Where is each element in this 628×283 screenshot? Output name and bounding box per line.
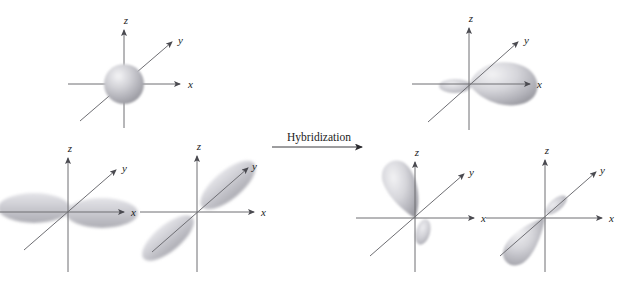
panel-py-orbital: z y x <box>135 140 266 272</box>
axis-label-x: x <box>480 212 486 224</box>
axis-label-x: x <box>608 212 614 224</box>
axis-label-y: y <box>599 164 605 176</box>
hybrid-2-lobes <box>380 158 434 246</box>
axis-label-z: z <box>544 144 550 156</box>
axis-label-z: z <box>196 140 202 152</box>
hybrid-3-small-lobe <box>542 192 570 218</box>
panel-px-orbital: z y x <box>0 142 138 272</box>
axis-label-y: y <box>121 162 127 174</box>
hybridization-label: Hybridization <box>287 131 351 144</box>
hybrid-1-small-lobe <box>439 79 471 93</box>
hybrid-2-small-lobe <box>413 218 434 247</box>
axis-label-z: z <box>67 142 73 154</box>
orbital-hybridization-figure: z y x z y x <box>0 0 628 283</box>
figure-canvas: z y x z y x <box>0 0 628 283</box>
hybrid-3-large-lobe <box>503 218 545 265</box>
hybridization-arrow-group: Hybridization <box>272 131 362 147</box>
axis-line-y <box>500 172 596 256</box>
axis-label-y: y <box>523 34 529 46</box>
axis-label-x: x <box>260 206 266 218</box>
axis-label-z: z <box>468 12 474 24</box>
axis-label-x: x <box>130 206 136 218</box>
axis-line-y <box>152 168 248 252</box>
axis-label-x: x <box>187 78 193 90</box>
axis-label-y: y <box>251 160 257 172</box>
axis-label-x: x <box>536 78 542 90</box>
axis-label-y: y <box>468 166 474 178</box>
s-orbital-sphere <box>104 64 144 104</box>
panel-hybrid-2: z y x <box>356 146 486 272</box>
axis-label-z: z <box>123 14 129 26</box>
panel-hybrid-1: z y x <box>412 12 542 130</box>
axis-label-y: y <box>177 34 183 46</box>
panel-s-orbital: z y x <box>68 14 193 128</box>
panel-hybrid-3: z y x <box>486 144 614 272</box>
axis-label-z: z <box>414 146 420 158</box>
px-lobe-positive <box>66 198 138 228</box>
